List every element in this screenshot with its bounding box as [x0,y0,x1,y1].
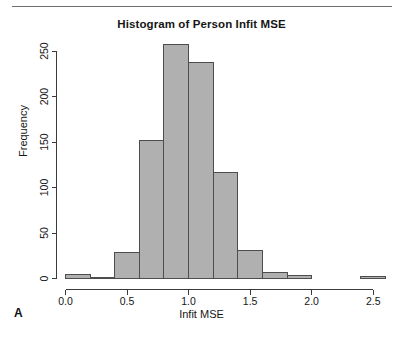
histogram-plot: 0501001502002500.00.51.01.52.02.5 [0,0,403,340]
x-axis-label: Infit MSE [0,308,403,320]
histogram-bar [361,277,386,279]
figure-panel: Histogram of Person Infit MSE 0501001502… [0,0,403,340]
y-axis-tick-label: 200 [38,88,50,106]
y-axis-tick-label: 0 [38,275,50,281]
x-axis-tick-label: 0.5 [120,295,135,307]
y-axis-tick-label: 50 [38,227,50,239]
histogram-bar [262,272,287,278]
x-axis-tick-label: 2.5 [366,295,381,307]
histogram-bar [238,250,263,278]
histogram-bar [164,45,189,279]
histogram-bar [115,252,140,278]
x-axis-tick-label: 1.5 [243,295,258,307]
panel-label: A [14,306,23,320]
histogram-bar [287,276,312,279]
histogram-bar [90,278,115,279]
y-axis-tick-label: 250 [38,42,50,60]
histogram-bar [139,140,164,278]
histogram-bar [189,62,214,278]
y-axis-tick-label: 100 [38,179,50,197]
histogram-bar [66,275,91,279]
histogram-bar [213,172,238,278]
x-axis-tick-label: 0.0 [58,295,73,307]
x-axis-tick-label: 1.0 [181,295,196,307]
y-axis-label: Frequency [17,86,29,176]
x-axis-tick-label: 2.0 [304,295,319,307]
bars-group [66,45,386,279]
y-axis-tick-label: 150 [38,133,50,151]
